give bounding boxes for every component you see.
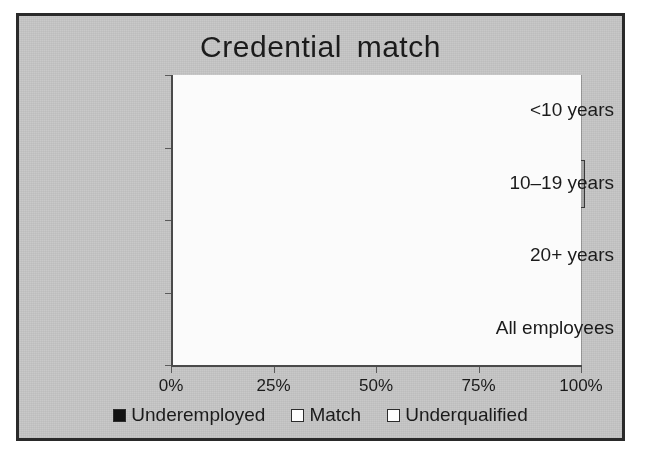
x-tickmark xyxy=(171,367,172,373)
category-label: 20+ years xyxy=(474,244,622,266)
chart-title: Credential match xyxy=(19,30,622,64)
y-tickmark xyxy=(165,75,171,76)
x-tickmark xyxy=(376,367,377,373)
y-tickmark xyxy=(165,293,171,294)
white-square-icon xyxy=(387,409,400,422)
category-label: <10 years xyxy=(474,99,622,121)
y-tickmark xyxy=(165,220,171,221)
x-tick-label: 50% xyxy=(359,376,393,396)
legend-item[interactable]: Underqualified xyxy=(387,404,528,426)
x-tickmark xyxy=(581,367,582,373)
y-tickmark xyxy=(165,148,171,149)
x-tickmark xyxy=(274,367,275,373)
legend-label: Match xyxy=(309,404,361,426)
x-tick-label: 100% xyxy=(559,376,602,396)
legend-item[interactable]: Match xyxy=(291,404,361,426)
black-square-icon xyxy=(113,409,126,422)
white-square-icon xyxy=(291,409,304,422)
legend-item[interactable]: Underemployed xyxy=(113,404,265,426)
x-tickmark xyxy=(479,367,480,373)
chart-legend: UnderemployedMatchUnderqualified xyxy=(19,404,622,426)
x-tick-label: 25% xyxy=(256,376,290,396)
y-tickmark xyxy=(165,365,171,366)
legend-label: Underemployed xyxy=(131,404,265,426)
category-label: 10–19 years xyxy=(474,172,622,194)
category-label: All employees xyxy=(474,317,622,339)
chart-figure: Credential match 23562137511352435345115… xyxy=(16,13,625,441)
x-tick-label: 75% xyxy=(461,376,495,396)
x-tick-label: 0% xyxy=(159,376,184,396)
legend-label: Underqualified xyxy=(405,404,528,426)
y-axis-line xyxy=(171,75,173,366)
